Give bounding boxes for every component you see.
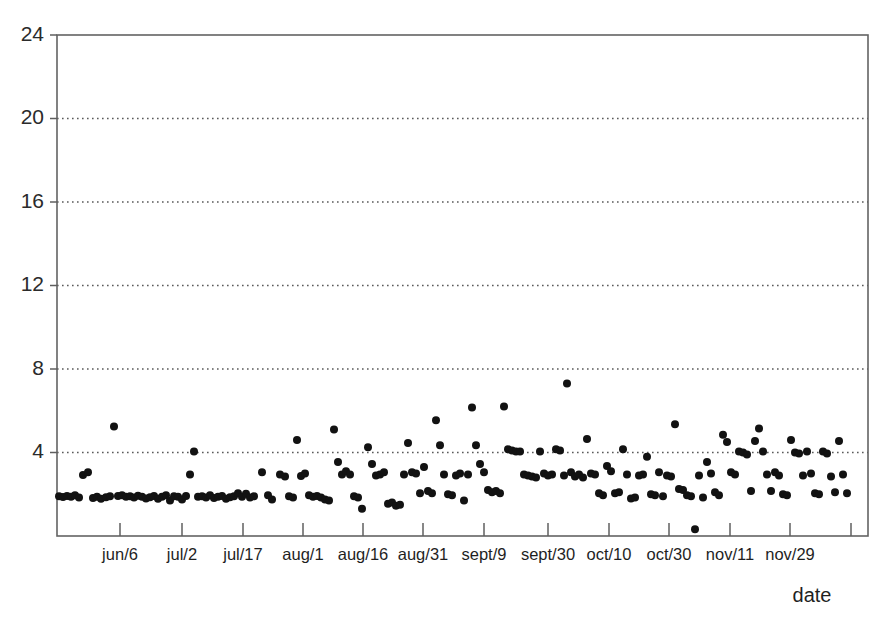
- data-point: [639, 470, 647, 478]
- x-tick-label-oct-30: oct/30: [647, 545, 692, 563]
- y-tick-label-12: 12: [21, 272, 44, 295]
- data-point: [815, 490, 823, 498]
- x-tick-label-aug-31: aug/31: [398, 545, 448, 563]
- data-point: [281, 473, 289, 481]
- data-point: [655, 468, 663, 476]
- data-point: [843, 489, 851, 497]
- data-point: [615, 488, 623, 496]
- data-point: [651, 491, 659, 499]
- data-point: [496, 489, 504, 497]
- data-point: [691, 525, 699, 533]
- data-point: [325, 497, 333, 505]
- data-point: [368, 460, 376, 468]
- data-point: [719, 431, 727, 439]
- data-point: [182, 492, 190, 500]
- data-point: [755, 424, 763, 432]
- data-point: [763, 470, 771, 478]
- data-point: [759, 447, 767, 455]
- data-point: [358, 505, 366, 513]
- data-point: [396, 501, 404, 509]
- data-point: [643, 453, 651, 461]
- data-point: [436, 441, 444, 449]
- data-point: [412, 469, 420, 477]
- y-tick-label-16: 16: [21, 189, 44, 212]
- data-point: [707, 469, 715, 477]
- data-point: [823, 450, 831, 458]
- y-tick-label-24: 24: [21, 22, 45, 45]
- data-point: [106, 492, 114, 500]
- data-point: [831, 488, 839, 496]
- data-point: [110, 422, 118, 430]
- data-point: [835, 437, 843, 445]
- data-point: [536, 447, 544, 455]
- chart-background: [0, 0, 895, 632]
- data-point: [671, 420, 679, 428]
- data-point: [556, 446, 564, 454]
- data-point: [548, 470, 556, 478]
- data-point: [448, 491, 456, 499]
- data-point: [579, 474, 587, 482]
- data-point: [591, 470, 599, 478]
- data-point: [827, 473, 835, 481]
- data-point: [476, 460, 484, 468]
- data-point: [807, 469, 815, 477]
- data-point: [715, 491, 723, 499]
- x-tick-label-jul-2: jul/2: [166, 545, 197, 563]
- data-point: [723, 438, 731, 446]
- data-point: [404, 439, 412, 447]
- data-point: [301, 469, 309, 477]
- y-tick-label-20: 20: [21, 105, 44, 128]
- data-point: [480, 468, 488, 476]
- data-point: [334, 458, 342, 466]
- x-tick-label-oct-10: oct/10: [587, 545, 632, 563]
- x-tick-label-sept-9: sept/9: [462, 545, 507, 563]
- data-point: [364, 443, 372, 451]
- data-point: [468, 404, 476, 412]
- data-point: [560, 471, 568, 479]
- data-point: [563, 380, 571, 388]
- data-point: [699, 493, 707, 501]
- data-point: [623, 470, 631, 478]
- data-point: [354, 493, 362, 501]
- y-tick-label-4: 4: [32, 439, 44, 462]
- data-point: [599, 491, 607, 499]
- data-point: [659, 492, 667, 500]
- chart-canvas: 4812162024 jun/6jul/2jul/17aug/1aug/16au…: [0, 0, 895, 632]
- x-tick-label-aug-1: aug/1: [282, 545, 323, 563]
- data-point: [695, 471, 703, 479]
- data-point: [803, 447, 811, 455]
- data-point: [799, 471, 807, 479]
- data-point: [464, 470, 472, 478]
- data-point: [743, 451, 751, 459]
- data-point: [258, 468, 266, 476]
- data-point: [250, 492, 258, 500]
- scatter-chart: 4812162024 jun/6jul/2jul/17aug/1aug/16au…: [0, 0, 895, 632]
- data-point: [432, 416, 440, 424]
- data-point: [456, 469, 464, 477]
- data-point: [460, 497, 468, 505]
- data-point: [583, 435, 591, 443]
- data-point: [75, 493, 83, 501]
- data-point: [380, 468, 388, 476]
- data-point: [839, 470, 847, 478]
- x-tick-label-jul-17: jul/17: [222, 545, 262, 563]
- data-point: [751, 437, 759, 445]
- data-point: [747, 487, 755, 495]
- x-tick-label-jun-6: jun/6: [101, 545, 138, 563]
- x-tick-label-nov-11: nov/11: [706, 545, 754, 563]
- y-tick-label-8: 8: [32, 356, 44, 379]
- data-point: [420, 463, 428, 471]
- data-point: [400, 470, 408, 478]
- data-point: [186, 470, 194, 478]
- data-point: [619, 445, 627, 453]
- data-point: [731, 470, 739, 478]
- data-point: [330, 426, 338, 434]
- data-point: [767, 487, 775, 495]
- data-point: [472, 441, 480, 449]
- data-point: [289, 493, 297, 501]
- data-point: [428, 489, 436, 497]
- x-tick-label-sept-30: sept/30: [521, 545, 575, 563]
- data-point: [516, 447, 524, 455]
- data-point: [607, 467, 615, 475]
- data-point: [703, 458, 711, 466]
